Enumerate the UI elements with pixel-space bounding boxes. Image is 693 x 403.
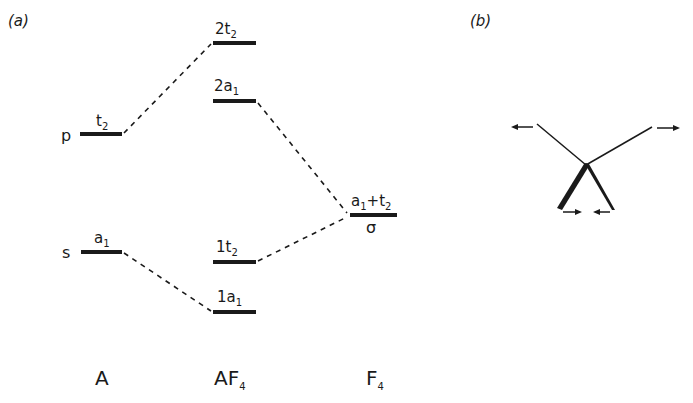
bond-upper-right xyxy=(586,127,652,165)
panel-a-label: (a) xyxy=(8,12,29,30)
arrow-lower-left-icon xyxy=(593,209,610,215)
column-AF4-label: AF4 xyxy=(214,366,246,392)
corr-2a1-sigma xyxy=(258,103,347,213)
energy-levels xyxy=(80,43,397,312)
mo-1a1-label: 1a1 xyxy=(217,288,242,308)
ligand-symmetry-label: a1+t2 xyxy=(351,192,391,212)
arrow-left-icon xyxy=(511,124,533,130)
corr-1t2-sigma xyxy=(258,217,347,261)
corr-p-2t2 xyxy=(124,44,211,133)
orbital-p-label: p xyxy=(61,126,71,145)
corr-s-1a1 xyxy=(124,253,211,311)
mo-1t2-label: 1t2 xyxy=(216,238,238,258)
bond-lower-right-wedge xyxy=(585,164,615,210)
sym-t2-label: t2 xyxy=(96,112,108,132)
column-A-label: A xyxy=(95,366,109,390)
central-atom xyxy=(584,163,588,167)
displacement-arrows xyxy=(511,124,680,215)
column-F4-label: F4 xyxy=(366,366,384,392)
distortion-sketch xyxy=(537,124,652,210)
panel-b-label: (b) xyxy=(470,12,491,30)
mo-2t2-label: 2t2 xyxy=(215,20,237,40)
arrow-right-icon xyxy=(657,125,680,131)
sym-a1-label: a1 xyxy=(94,229,110,249)
orbital-s-label: s xyxy=(62,243,70,262)
arrow-lower-right-icon xyxy=(563,209,582,215)
bond-lower-left-wedge xyxy=(557,164,589,210)
sigma-label: σ xyxy=(366,218,376,237)
correlation-lines xyxy=(124,44,347,311)
bond-upper-left xyxy=(537,124,586,165)
mo-diagram: (a) (b) p s t2 a1 2t2 2a1 1t2 1a1 a1+t2 … xyxy=(0,0,693,403)
mo-2a1-label: 2a1 xyxy=(214,77,239,97)
